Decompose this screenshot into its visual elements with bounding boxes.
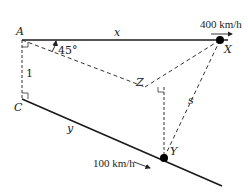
right-angle-z xyxy=(158,87,164,92)
point-y xyxy=(160,154,168,162)
label-y-segment: y xyxy=(66,122,74,135)
line-cy xyxy=(22,99,222,186)
label-y-point: Y xyxy=(170,145,179,158)
diagram-canvas: A C X Y Z x y s 1 45° 400 km/h 100 km/h xyxy=(0,0,248,194)
angle-arc-icon xyxy=(52,41,56,52)
label-angle: 45° xyxy=(58,44,78,57)
label-z: Z xyxy=(135,76,144,89)
speed-arrow-y-icon xyxy=(134,162,150,168)
label-x-point: X xyxy=(223,43,233,56)
right-angle-c xyxy=(22,93,28,99)
label-speed-y: 100 km/h xyxy=(93,157,135,169)
label-s-segment: s xyxy=(188,94,194,107)
point-x xyxy=(216,36,224,44)
label-a: A xyxy=(15,25,24,38)
label-x-segment: x xyxy=(114,26,121,39)
label-height: 1 xyxy=(26,67,33,80)
label-speed-x: 400 km/h xyxy=(200,18,242,30)
right-angle-a xyxy=(22,42,28,47)
label-c: C xyxy=(14,101,23,114)
line-az-dashed xyxy=(22,40,145,87)
line-zx-dashed xyxy=(145,40,220,87)
